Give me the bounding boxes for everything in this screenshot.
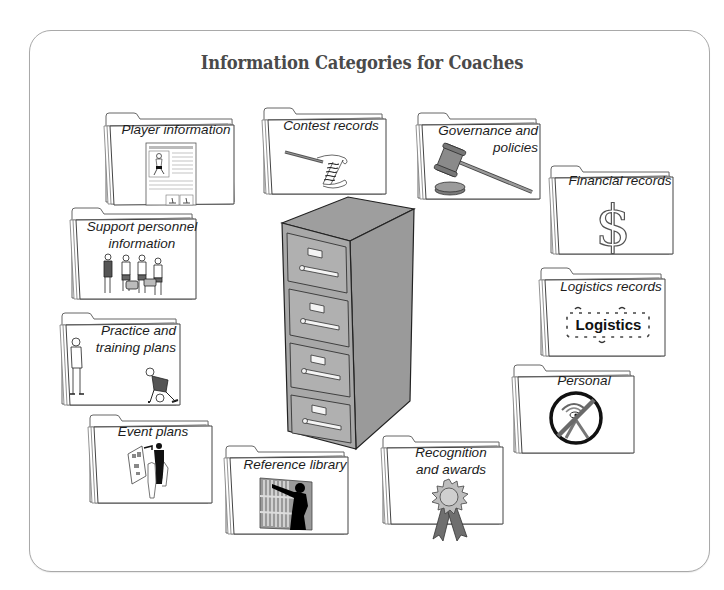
dollar-sign-icon: $	[593, 193, 633, 251]
folder-event-plans: Event plans	[84, 412, 214, 504]
folder-support-personnel-information: Support personnel information	[66, 205, 198, 300]
folder-governance-and-policies: Governance and policies	[412, 110, 542, 200]
folder-label: Personal	[508, 373, 648, 389]
player-profile-document-icon	[146, 143, 198, 205]
filing-cabinet	[280, 195, 420, 459]
folder-personal: Personal	[508, 362, 636, 454]
folder-label: Logistics records	[535, 279, 677, 295]
logistics-icon-text: Logistics	[561, 316, 656, 333]
staff-group-icon	[100, 253, 170, 299]
folder-label: Financial records	[545, 173, 685, 189]
folder-practice-and-training-plans: Practice and training plans	[56, 310, 182, 406]
diagram-title: Information Categories for Coaches	[51, 51, 674, 73]
folder-label: Reference library	[220, 457, 360, 473]
no-eye-prohibited-icon	[548, 390, 604, 446]
folder-label: Support personnel information	[66, 218, 208, 252]
svg-text:$: $	[595, 193, 631, 258]
filing-cabinet-icon	[280, 195, 420, 455]
folder-label: Player information	[100, 122, 244, 138]
folder-logistics-records: Logistics records Logistics	[535, 265, 667, 357]
logistics-puzzle-icon: Logistics	[561, 305, 656, 345]
gavel-icon	[432, 144, 538, 200]
folder-contest-records: Contest records	[258, 105, 388, 195]
folder-financial-records: Financial records $	[545, 163, 675, 255]
scroll-and-pen-icon	[283, 140, 363, 190]
coach-and-athlete-icon	[68, 336, 180, 404]
folder-label: Event plans	[84, 424, 218, 440]
award-ribbon-icon	[429, 479, 473, 543]
folder-label: Contest records	[258, 118, 396, 134]
folder-player-information: Player information	[100, 110, 236, 205]
planning-board-icon	[126, 442, 176, 502]
library-bookshelf-icon	[260, 476, 314, 530]
